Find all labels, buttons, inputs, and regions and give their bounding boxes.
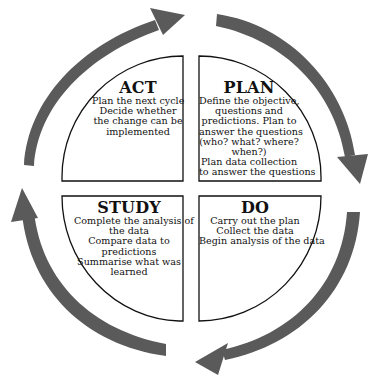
do-quadrant: DO Carry out the plan Collect the data B… — [199, 199, 311, 247]
plan-title: PLAN — [199, 79, 299, 96]
do-line: Begin analysis of the data — [199, 236, 311, 246]
study-title: STUDY — [74, 199, 184, 216]
do-title: DO — [199, 199, 311, 216]
study-quadrant: STUDY Complete the analysis of the data … — [74, 199, 184, 277]
do-description: Carry out the plan Collect the data Begi… — [199, 216, 311, 247]
plan-quadrant: PLAN Define the objective, questions and… — [199, 79, 299, 178]
pdsa-cycle-diagram: ACT Plan the next cycle Decide whether t… — [0, 0, 377, 382]
act-line: implemented — [92, 127, 184, 137]
plan-description: Define the objective, questions and pred… — [199, 96, 299, 178]
act-title: ACT — [92, 79, 184, 96]
act-quadrant: ACT Plan the next cycle Decide whether t… — [92, 79, 184, 137]
study-description: Complete the analysis of the data Compar… — [74, 216, 184, 277]
plan-line: to answer the questions — [199, 167, 299, 177]
cycle-graphics — [0, 0, 377, 382]
act-description: Plan the next cycle Decide whether the c… — [92, 96, 184, 137]
study-line: learned — [74, 267, 184, 277]
